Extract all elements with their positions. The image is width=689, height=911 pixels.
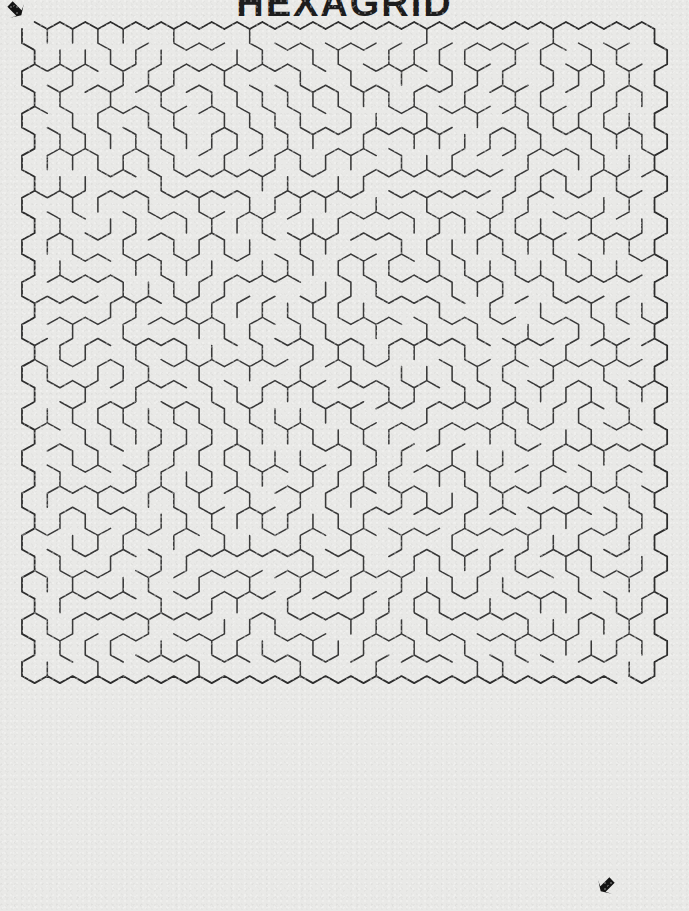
entrance-arrow-icon [7,1,23,17]
maze-marker-group [7,1,614,893]
maze-outer-border [22,22,667,683]
exit-arrow-icon [598,877,614,893]
maze-inner-walls [35,29,655,676]
hexagonal-maze [0,0,689,911]
maze-page: HEXAGRID [0,0,689,911]
maze-wall-group [22,22,667,683]
